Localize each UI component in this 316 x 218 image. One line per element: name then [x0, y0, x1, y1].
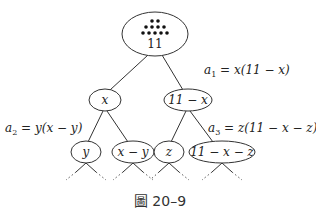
edge-root-x: [110, 55, 148, 90]
svg-text:11 − x: 11 − x: [168, 93, 208, 107]
svg-text:11 − x − z: 11 − x − z: [190, 145, 254, 159]
root-label: 11: [147, 37, 162, 51]
svg-text:z: z: [165, 145, 173, 159]
edge-x-xy: [107, 111, 128, 142]
svg-text:x: x: [102, 93, 109, 107]
edge-x-y: [88, 111, 103, 142]
edge-11x-z: [171, 111, 186, 142]
node-z: z: [154, 141, 184, 163]
node-y: y: [71, 141, 101, 163]
svg-text:y: y: [82, 145, 90, 159]
node-x: x: [89, 89, 121, 111]
annotation-a3: a3 = z(11 − x − z): [208, 121, 316, 137]
figure-caption: 圖 20–9: [134, 193, 186, 209]
edge-root-11-x: [162, 55, 183, 90]
root-node: 11: [122, 12, 188, 56]
node-11-minus-x-minus-z: 11 − x − z: [189, 141, 255, 163]
tree-diagram: 11 x 11 − x y x − y z 11 − x − z a1 = x(…: [0, 0, 316, 218]
node-11-minus-x: 11 − x: [164, 89, 212, 111]
annotation-a2: a2 = y(x − y): [5, 121, 83, 137]
continuation-edges: [66, 163, 242, 180]
node-x-minus-y: x − y: [112, 141, 154, 163]
annotation-a1: a1 = x(11 − x): [204, 63, 290, 79]
svg-text:x − y: x − y: [117, 145, 148, 159]
